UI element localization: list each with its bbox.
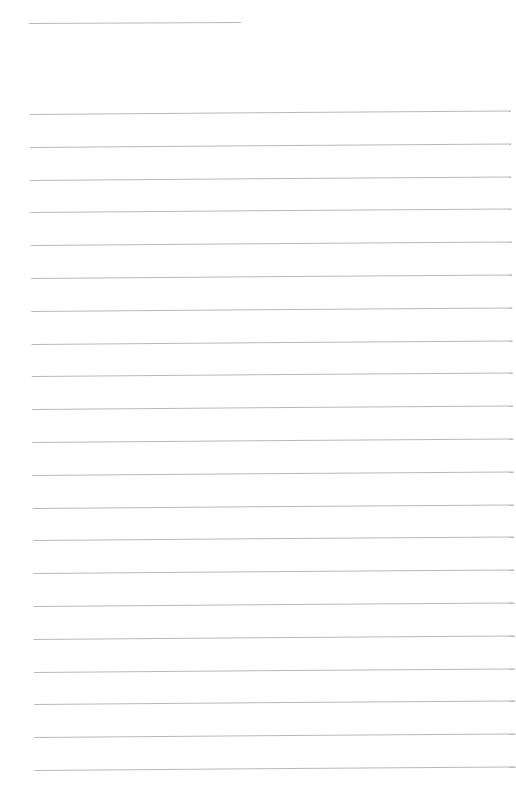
ruled-line [31, 208, 512, 213]
ruled-line [34, 668, 515, 673]
lined-paper-page [0, 0, 516, 787]
ruled-line [32, 340, 513, 345]
ruled-line [31, 241, 512, 246]
ruled-line [33, 569, 514, 574]
ruled-line [32, 372, 513, 377]
ruled-lines [29, 0, 516, 787]
ruled-line [31, 307, 512, 312]
ruled-line [33, 536, 514, 541]
ruled-line [34, 700, 515, 705]
ruled-line [32, 405, 513, 410]
ruled-line [33, 504, 514, 509]
ruled-line [32, 471, 513, 476]
ruled-line [32, 438, 513, 443]
ruled-line [30, 176, 511, 181]
ruled-line [34, 733, 515, 738]
ruled-line [31, 274, 512, 279]
ruled-line [30, 110, 511, 115]
ruled-line [34, 635, 515, 640]
ruled-line [30, 143, 511, 148]
ruled-line [33, 602, 514, 607]
ruled-line [35, 766, 516, 771]
